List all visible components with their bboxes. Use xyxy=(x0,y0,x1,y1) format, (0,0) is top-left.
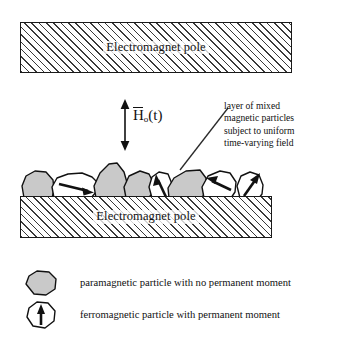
annotation-line-2: subject to uniform xyxy=(224,125,334,137)
particle-0 xyxy=(22,171,54,198)
field-symbol-h: H xyxy=(133,108,144,123)
bottom-pole-label: Electromagnet pole xyxy=(93,210,198,224)
particle-7 xyxy=(237,172,263,198)
annotation-line-1: magnetic particles xyxy=(224,112,334,124)
diagram-canvas: Electromagnet pole Ho(t) layer of mixed … xyxy=(0,0,337,347)
magnetic-particle-layer xyxy=(16,156,278,200)
particle-2 xyxy=(94,163,128,198)
particle-layer-annotation: layer of mixed magnetic particles subjec… xyxy=(224,100,334,149)
annotation-line-3: time-varying field xyxy=(224,137,334,149)
legend-label-paramagnetic: paramagnetic particle with no permanent … xyxy=(80,278,291,289)
top-pole-label: Electromagnet pole xyxy=(103,41,208,55)
applied-field-arrow-icon xyxy=(118,99,132,151)
annotation-line-0: layer of mixed xyxy=(224,100,334,112)
legend-item-paramagnetic: paramagnetic particle with no permanent … xyxy=(22,268,291,298)
top-electromagnet-pole: Electromagnet pole xyxy=(20,22,292,73)
applied-field-label: Ho(t) xyxy=(133,108,163,123)
ferromagnetic-particle-icon xyxy=(22,300,62,330)
field-argument: (t) xyxy=(148,107,162,123)
legend-item-ferromagnetic: ferromagnetic particle with permanent mo… xyxy=(22,300,280,330)
bottom-electromagnet-pole: Electromagnet pole xyxy=(20,196,272,238)
particle-1 xyxy=(52,173,98,198)
particle-5 xyxy=(168,170,206,198)
field-subscript: o xyxy=(144,114,149,124)
legend-label-ferromagnetic: ferromagnetic particle with permanent mo… xyxy=(80,310,280,321)
particle-6 xyxy=(202,171,236,198)
paramagnetic-particle-icon xyxy=(22,268,62,298)
